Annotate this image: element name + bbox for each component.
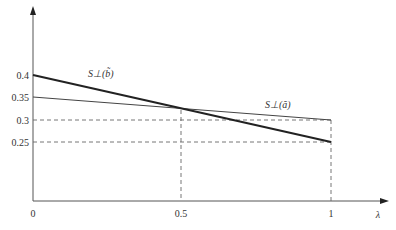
series-a-label: S⊥(ã) <box>265 99 291 111</box>
x-tick-0.5: 0.5 <box>175 208 188 219</box>
series-b-label: S⊥(b̃) <box>88 67 114 80</box>
y-tick-0.25: 0.25 <box>12 137 30 148</box>
y-tick-0.3: 0.3 <box>17 115 30 126</box>
chart: 0.4 0.35 0.3 0.25 0 0.5 1 λ S⊥(b̃) S⊥(ã) <box>0 0 396 230</box>
x-axis-arrow-icon <box>380 198 389 204</box>
x-tick-0: 0 <box>31 208 36 219</box>
y-tick-0.4: 0.4 <box>17 70 30 81</box>
y-tick-0.35: 0.35 <box>12 92 30 103</box>
x-axis-label: λ <box>375 209 381 220</box>
y-axis-arrow-icon <box>30 6 36 15</box>
x-tick-1: 1 <box>329 208 334 219</box>
